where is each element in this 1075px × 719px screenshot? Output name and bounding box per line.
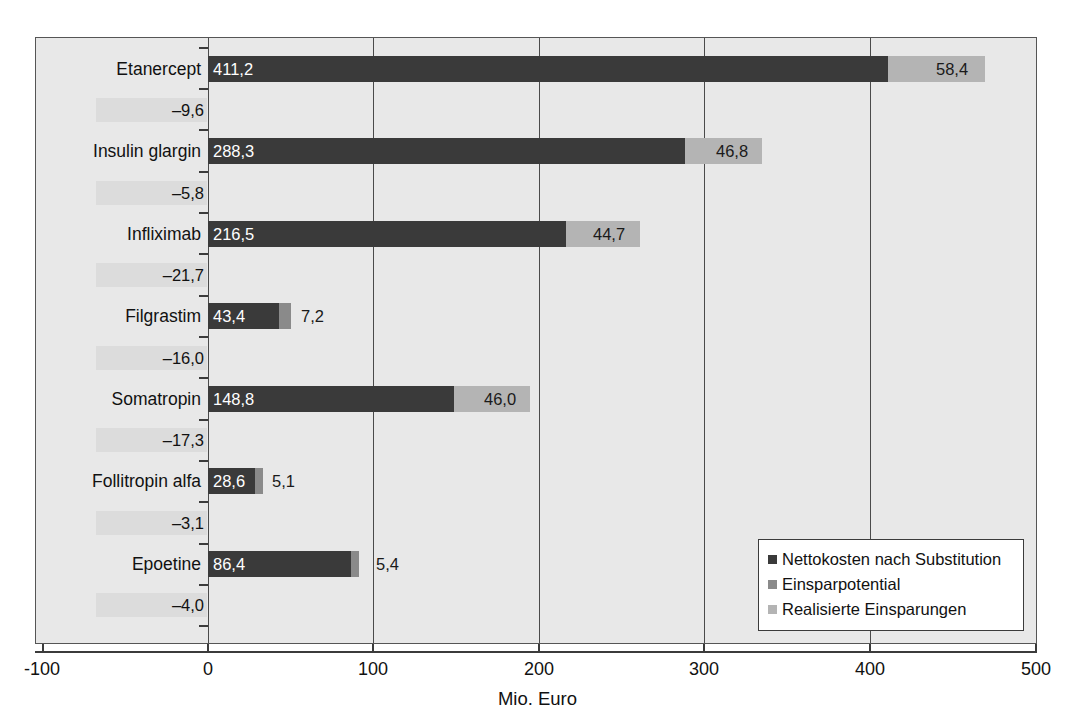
x-tick-label: 400 (855, 659, 885, 680)
x-tick (42, 644, 44, 653)
legend-swatch-mid-icon (768, 580, 777, 589)
bar-value-net: 288,3 (213, 138, 254, 164)
x-tick (1035, 644, 1037, 653)
category-label-follitropin-alfa: Follitropin alfa (36, 468, 201, 494)
bar-value-saving: 5,4 (376, 551, 399, 577)
bar-value-saving: 46,8 (716, 138, 748, 164)
category-label-etanercept: Etanercept (36, 56, 201, 82)
x-tick-label: 0 (203, 659, 213, 680)
bar-value-net: 43,4 (213, 303, 245, 329)
x-tick (372, 644, 374, 653)
x-tick (207, 644, 209, 653)
y-tick (199, 129, 208, 131)
bar-value-saving: 5,1 (272, 468, 295, 494)
y-tick (199, 460, 208, 462)
x-axis-line (35, 651, 1037, 653)
negative-value-label: –16,0 (96, 346, 207, 370)
negative-value-label: –3,1 (96, 511, 207, 535)
bar-value-saving: 46,0 (484, 386, 516, 412)
x-tick-label: -100 (24, 659, 60, 680)
y-tick (199, 47, 208, 49)
bar-segment-saving (279, 303, 291, 329)
negative-value-label: –9,6 (96, 98, 207, 122)
category-label-somatropin: Somatropin (36, 386, 201, 412)
y-tick (199, 419, 208, 421)
bar-segment-net (208, 221, 566, 247)
y-tick (199, 253, 208, 255)
x-tick (538, 644, 540, 653)
x-tick (703, 644, 705, 653)
bar-segment-saving (351, 551, 360, 577)
x-axis-title: Mio. Euro (0, 688, 1075, 710)
legend-item-realisierte-einsparungen: Realisierte Einsparungen (768, 597, 1014, 622)
y-tick (199, 88, 208, 90)
x-tick-label: 100 (358, 659, 388, 680)
x-tick-label: 500 (1021, 659, 1051, 680)
bar-value-saving: 58,4 (936, 56, 968, 82)
category-label-epoetine: Epoetine (36, 551, 201, 577)
bar-segment-net (208, 56, 889, 82)
x-tick (869, 644, 871, 653)
legend-item-einsparpotential: Einsparpotential (768, 572, 1014, 597)
y-tick (199, 212, 208, 214)
legend-label: Realisierte Einsparungen (782, 600, 966, 619)
y-tick (199, 171, 208, 173)
x-tick-label: 200 (524, 659, 554, 680)
y-tick (199, 584, 208, 586)
chart-root: 411,2 58,4 288,3 46,8 216,5 44,7 43,4 7,… (0, 0, 1075, 719)
bar-value-saving: 7,2 (301, 303, 324, 329)
legend-label: Einsparpotential (782, 575, 900, 594)
chart-legend: Nettokosten nach Substitution Einsparpot… (758, 539, 1024, 631)
bar-value-net: 86,4 (213, 551, 245, 577)
category-label-infliximab: Infliximab (36, 221, 201, 247)
bar-value-net: 28,6 (213, 468, 245, 494)
plot-area: 411,2 58,4 288,3 46,8 216,5 44,7 43,4 7,… (35, 37, 1037, 644)
legend-swatch-dark-icon (768, 555, 777, 564)
y-tick (199, 501, 208, 503)
y-tick (199, 625, 208, 627)
legend-item-nettokosten: Nettokosten nach Substitution (768, 547, 1014, 572)
negative-value-label: –21,7 (96, 263, 207, 287)
y-tick (199, 543, 208, 545)
legend-label: Nettokosten nach Substitution (782, 550, 1001, 569)
bar-value-net: 148,8 (213, 386, 254, 412)
negative-value-label: –4,0 (96, 593, 207, 617)
x-tick-label: 300 (689, 659, 719, 680)
category-label-filgrastim: Filgrastim (36, 303, 201, 329)
negative-value-label: –17,3 (96, 428, 207, 452)
bar-value-saving: 44,7 (593, 221, 625, 247)
bar-value-net: 411,2 (213, 56, 253, 82)
bar-segment-saving (255, 468, 263, 494)
y-tick (199, 377, 208, 379)
negative-value-label: –5,8 (96, 181, 207, 205)
bar-segment-net (208, 138, 685, 164)
legend-swatch-light-icon (768, 605, 777, 614)
category-label-insulin-glargin: Insulin glargin (36, 138, 201, 164)
y-tick (199, 336, 208, 338)
y-tick (199, 295, 208, 297)
bar-value-net: 216,5 (213, 221, 254, 247)
